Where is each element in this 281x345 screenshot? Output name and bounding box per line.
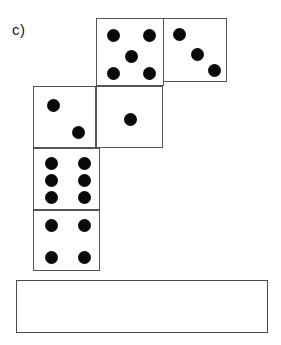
die-four[interactable]: [33, 210, 100, 271]
pip: [78, 157, 91, 170]
pip: [47, 99, 60, 112]
pip: [191, 48, 204, 61]
pip: [78, 174, 91, 187]
pip: [45, 219, 58, 232]
pip: [107, 67, 120, 80]
pip: [143, 67, 156, 80]
pip: [143, 29, 156, 42]
pip: [173, 28, 186, 41]
pip: [45, 191, 58, 204]
pip: [45, 251, 58, 264]
pip: [72, 126, 85, 139]
pip: [45, 157, 58, 170]
pip: [208, 64, 221, 77]
die-three[interactable]: [163, 18, 227, 82]
figure-canvas: c): [0, 0, 281, 345]
die-five[interactable]: [96, 18, 164, 86]
pip: [78, 219, 91, 232]
die-six[interactable]: [33, 148, 100, 210]
figure-label: c): [12, 22, 26, 37]
pip: [78, 191, 91, 204]
pip: [45, 174, 58, 187]
pip: [107, 29, 120, 42]
answer-box[interactable]: [16, 280, 268, 333]
pip: [78, 251, 91, 264]
pip: [125, 50, 138, 63]
die-two[interactable]: [33, 86, 96, 148]
die-one[interactable]: [96, 86, 163, 148]
pip: [124, 113, 137, 126]
